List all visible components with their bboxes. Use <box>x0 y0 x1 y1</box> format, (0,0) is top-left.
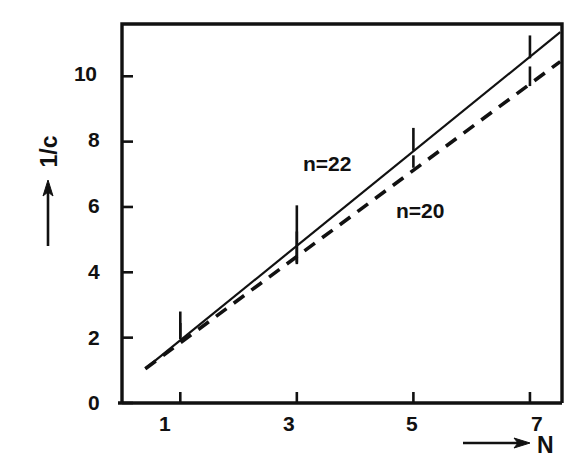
figure-canvas: 10 8 6 4 2 0 1 3 5 7 n=22 n=20 1/c N <box>0 0 588 471</box>
xtick-label-1: 1 <box>159 412 170 436</box>
y-axis-title-text: 1/c <box>36 112 63 192</box>
ytick-label-10: 10 <box>74 62 96 86</box>
plot-frame-box <box>122 24 562 403</box>
ytick-label-4: 4 <box>88 260 99 284</box>
trendline-solid <box>145 32 560 369</box>
series-label-n22: n=22 <box>303 152 351 176</box>
ytick-label-2: 2 <box>88 326 99 350</box>
ytick-label-8: 8 <box>88 128 99 152</box>
series-n20 <box>145 62 560 369</box>
y-axis-title: 1/c <box>18 128 80 168</box>
trendline-dashed <box>145 62 560 369</box>
xtick-label-3: 3 <box>283 412 294 436</box>
x-axis-title-text: N <box>537 432 554 459</box>
series-label-n20: n=20 <box>396 199 444 223</box>
series-n22 <box>145 32 560 369</box>
xtick-label-5: 5 <box>406 412 417 436</box>
ytick-label-0: 0 <box>88 391 99 415</box>
data-series-group <box>145 32 560 369</box>
axes-group <box>43 24 562 448</box>
ytick-label-6: 6 <box>88 194 99 218</box>
